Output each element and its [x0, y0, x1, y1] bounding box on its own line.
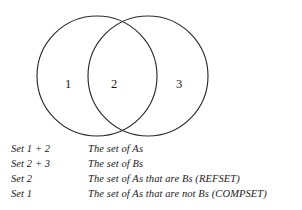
- legend-table: Set 1 + 2 The set of As Set 2 + 3 The se…: [0, 143, 302, 203]
- legend-description: The set of Bs: [88, 158, 143, 169]
- legend-description: The set of As that are Bs (REFSET): [88, 173, 240, 184]
- legend-set-label: Set 2 + 3: [0, 158, 88, 169]
- legend-set-label: Set 1 + 2: [0, 143, 88, 154]
- legend-row: Set 1 + 2 The set of As: [0, 143, 302, 158]
- legend-row: Set 2 + 3 The set of Bs: [0, 158, 302, 173]
- legend-description: The set of As: [88, 143, 143, 154]
- circle-a: [37, 16, 157, 136]
- legend-row: Set 2 The set of As that are Bs (REFSET): [0, 173, 302, 188]
- legend-row: Set 1 The set of As that are not Bs (COM…: [0, 188, 302, 203]
- venn-circles-svg: [0, 0, 302, 145]
- region-label-3: 3: [170, 78, 188, 91]
- legend-description: The set of As that are not Bs (COMPSET): [88, 188, 267, 199]
- region-label-1: 1: [59, 78, 77, 91]
- venn-diagram-figure: 1 2 3 Set 1 + 2 The set of As Set 2 + 3 …: [0, 0, 302, 210]
- venn-diagram: 1 2 3: [0, 0, 302, 145]
- region-label-2: 2: [105, 78, 123, 91]
- legend-set-label: Set 1: [0, 188, 88, 199]
- circle-b: [88, 16, 208, 136]
- legend-set-label: Set 2: [0, 173, 88, 184]
